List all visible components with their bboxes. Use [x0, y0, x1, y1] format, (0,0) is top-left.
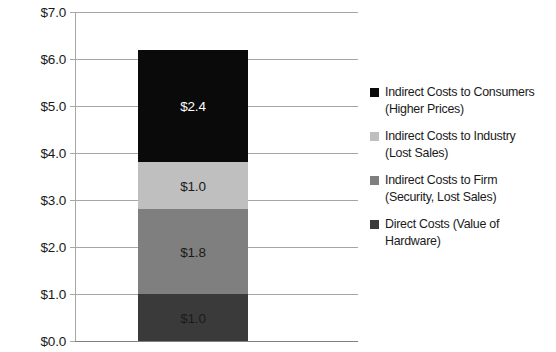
- y-axis-tick-label: $4.0: [0, 146, 66, 161]
- legend-label-line2: Hardware): [385, 233, 499, 250]
- bar-segment[interactable]: $1.0: [138, 294, 248, 341]
- legend-swatch-icon: [370, 176, 379, 185]
- legend-swatch-icon: [370, 88, 379, 97]
- legend-label-line1: Indirect Costs to Consumers: [385, 85, 535, 99]
- y-axis-tick-label: $1.0: [0, 287, 66, 302]
- legend-label-line2: (Higher Prices): [385, 101, 535, 118]
- legend-label-line2: (Lost Sales): [385, 145, 516, 162]
- legend-label-line1: Indirect Costs to Industry: [385, 129, 516, 143]
- y-axis-tick: [70, 200, 75, 201]
- bar-segment-value-label: $1.8: [138, 244, 248, 259]
- y-axis-tick-label: $2.0: [0, 240, 66, 255]
- y-axis-tick: [70, 59, 75, 60]
- bar-segment[interactable]: $1.0: [138, 162, 248, 209]
- y-axis-line: [75, 12, 76, 341]
- plot-area: $2.4$1.0$1.8$1.0: [75, 12, 358, 341]
- y-axis-tick-label: $7.0: [0, 5, 66, 20]
- y-axis-tick: [70, 106, 75, 107]
- bar-segment-value-label: $2.4: [138, 99, 248, 114]
- legend-entry[interactable]: Indirect Costs to Firm(Security, Lost Sa…: [370, 172, 556, 205]
- bar-segment[interactable]: $2.4: [138, 50, 248, 163]
- legend-label: Indirect Costs to Industry(Lost Sales): [385, 128, 516, 161]
- legend-label-line2: (Security, Lost Sales): [385, 189, 497, 206]
- bar-segment-value-label: $1.0: [138, 178, 248, 193]
- legend-entry[interactable]: Indirect Costs to Consumers(Higher Price…: [370, 84, 556, 117]
- x-axis-line: [75, 341, 358, 342]
- bar-segment[interactable]: $1.8: [138, 209, 248, 294]
- bar-segment-value-label: $1.0: [138, 310, 248, 325]
- legend-entry[interactable]: Direct Costs (Value ofHardware): [370, 216, 556, 249]
- legend-entry[interactable]: Indirect Costs to Industry(Lost Sales): [370, 128, 556, 161]
- legend-label: Indirect Costs to Consumers(Higher Price…: [385, 84, 535, 117]
- gridline: [75, 12, 358, 13]
- stacked-bar[interactable]: $2.4$1.0$1.8$1.0: [138, 50, 248, 341]
- legend-swatch-icon: [370, 220, 379, 229]
- y-axis-tick-label: $3.0: [0, 193, 66, 208]
- y-axis-tick: [70, 294, 75, 295]
- y-axis-tick-label: $5.0: [0, 99, 66, 114]
- legend-label: Indirect Costs to Firm(Security, Lost Sa…: [385, 172, 497, 205]
- legend: Indirect Costs to Consumers(Higher Price…: [370, 84, 556, 260]
- legend-swatch-icon: [370, 132, 379, 141]
- chart-page: $7.0$6.0$5.0$4.0$3.0$2.0$1.0$0.0 $2.4$1.…: [0, 0, 556, 352]
- y-axis-tick: [70, 247, 75, 248]
- y-axis-tick-label: $6.0: [0, 52, 66, 67]
- legend-label-line1: Indirect Costs to Firm: [385, 173, 497, 187]
- legend-label-line1: Direct Costs (Value of: [385, 217, 499, 231]
- y-axis-tick: [70, 153, 75, 154]
- y-axis-tick: [70, 12, 75, 13]
- y-axis-tick-label: $0.0: [0, 334, 66, 349]
- legend-label: Direct Costs (Value ofHardware): [385, 216, 499, 249]
